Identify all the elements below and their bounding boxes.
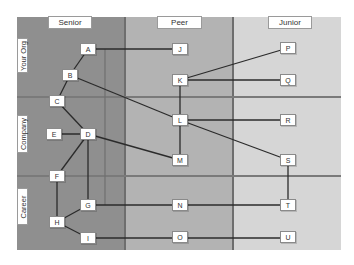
- row-label-text: Company: [18, 118, 27, 150]
- node-b: B: [62, 69, 78, 81]
- column-header-label: Senior: [58, 18, 81, 27]
- node-e: E: [46, 128, 62, 140]
- column-header-junior: Junior: [268, 16, 312, 29]
- row-label-text: Your Org: [18, 41, 27, 71]
- node-a: A: [80, 43, 96, 55]
- mentor-network-diagram: Senior Peer Junior Your Org Company Care…: [0, 0, 354, 265]
- node-s: S: [280, 154, 296, 166]
- node-o: O: [172, 231, 188, 243]
- node-p: P: [280, 42, 296, 54]
- column-header-label: Junior: [279, 18, 301, 27]
- row-label-text: Career: [18, 195, 27, 218]
- column-header-senior: Senior: [48, 16, 92, 29]
- node-t: T: [280, 199, 296, 211]
- node-u: U: [280, 231, 296, 243]
- node-m: M: [172, 154, 188, 166]
- node-q: Q: [280, 74, 296, 86]
- node-c: C: [49, 95, 65, 107]
- node-l: L: [172, 114, 188, 126]
- row-label-career: Career: [17, 188, 28, 225]
- node-r: R: [280, 114, 296, 126]
- node-k: K: [172, 74, 188, 86]
- column-header-label: Peer: [171, 18, 188, 27]
- node-d: D: [80, 128, 96, 140]
- row-label-your-org: Your Org: [17, 38, 28, 73]
- node-g: G: [80, 199, 96, 211]
- node-n: N: [172, 199, 188, 211]
- node-f: F: [49, 170, 65, 182]
- node-h: H: [49, 216, 65, 228]
- node-i: I: [80, 232, 96, 244]
- node-j: J: [172, 43, 188, 55]
- row-label-company: Company: [17, 115, 28, 153]
- column-header-peer: Peer: [157, 16, 202, 29]
